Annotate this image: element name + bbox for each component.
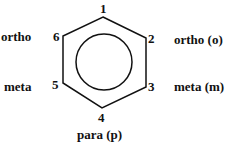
aromatic-circle [76, 34, 132, 90]
position-6: 6 [53, 30, 60, 43]
label-ortho: ortho [1, 30, 31, 43]
label-meta-m: meta (m) [174, 80, 224, 93]
position-5: 5 [52, 78, 59, 91]
benzene-ring [0, 0, 229, 147]
label-para-p: para (p) [77, 128, 122, 141]
label-meta: meta [4, 80, 31, 93]
position-3: 3 [148, 80, 155, 93]
position-4: 4 [98, 111, 105, 124]
position-2: 2 [148, 32, 155, 45]
position-1: 1 [100, 2, 107, 15]
label-ortho-o: ortho (o) [174, 33, 223, 46]
